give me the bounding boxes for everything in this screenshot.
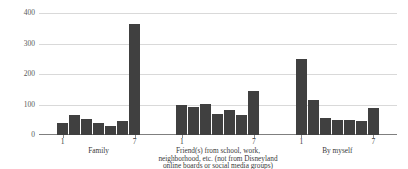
group-caption-line: Family: [39, 147, 158, 155]
bar[interactable]: [344, 120, 355, 135]
group-caption-line: By myself: [278, 147, 397, 155]
bars: [57, 13, 140, 135]
x-axis-layer: 17Family17Friend(s) from school, work,ne…: [39, 135, 397, 169]
bar[interactable]: [81, 119, 92, 135]
y-tick-label: 0: [1, 131, 35, 139]
y-tick-label: 100: [1, 101, 35, 109]
bar[interactable]: [224, 110, 235, 135]
bars: [176, 13, 259, 135]
bar[interactable]: [105, 126, 116, 135]
x-group: 17Family: [39, 135, 158, 169]
bar[interactable]: [129, 24, 140, 135]
x-group: 17Friend(s) from school, work,neighborho…: [158, 135, 277, 169]
bar[interactable]: [212, 114, 223, 135]
bars: [296, 13, 379, 135]
bar[interactable]: [248, 91, 259, 135]
x-tick-label: 7: [371, 138, 375, 146]
y-tick-label: 400: [1, 9, 35, 17]
x-tick-label: 7: [252, 138, 256, 146]
x-group: 17By myself: [278, 135, 397, 169]
bar[interactable]: [320, 118, 331, 135]
x-tick-label: 1: [299, 138, 303, 146]
y-tick-label: 300: [1, 40, 35, 48]
x-tick-label: 1: [180, 138, 184, 146]
bar[interactable]: [93, 123, 104, 136]
bar-group: [39, 13, 158, 135]
x-tick-label: 7: [133, 138, 137, 146]
bar-group: [278, 13, 397, 135]
bar-groups: [39, 13, 397, 135]
bar[interactable]: [356, 121, 367, 135]
group-caption-line: online boards or social media groups): [158, 162, 277, 169]
bar[interactable]: [57, 123, 68, 136]
bar[interactable]: [69, 115, 80, 135]
bar[interactable]: [236, 115, 247, 135]
group-caption: Friend(s) from school, work,neighborhood…: [158, 147, 277, 169]
bar[interactable]: [117, 121, 128, 135]
bar[interactable]: [296, 59, 307, 135]
bar[interactable]: [368, 108, 379, 135]
bar-chart: 0100200300400 17Family17Friend(s) from s…: [0, 0, 408, 169]
bar[interactable]: [308, 100, 319, 135]
y-tick-label: 200: [1, 70, 35, 78]
group-caption: By myself: [278, 147, 397, 155]
bar[interactable]: [176, 105, 187, 136]
x-tick-label: 1: [61, 138, 65, 146]
bar[interactable]: [200, 104, 211, 135]
bar-group: [158, 13, 277, 135]
group-caption: Family: [39, 147, 158, 155]
bar[interactable]: [188, 107, 199, 135]
bar[interactable]: [332, 120, 343, 135]
